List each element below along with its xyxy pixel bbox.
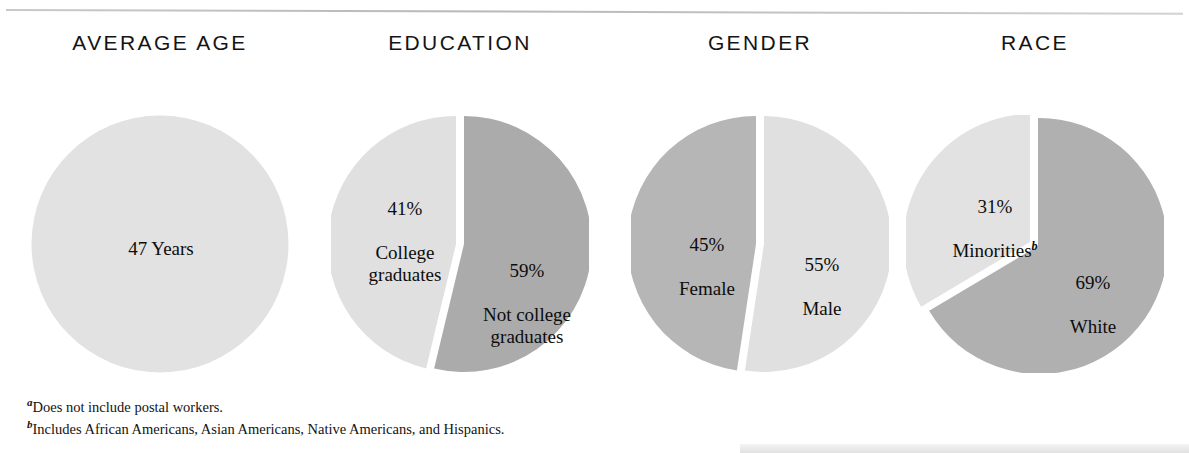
demographics-figure: AVERAGE AGE EDUCATION GENDER RACE 47 Yea… [0,0,1189,453]
pie-chart-gender [631,115,889,373]
footnote-a: aDoes not include postal workers. [27,396,727,418]
pie-chart-average-age [31,115,289,373]
chart-title-race: RACE [905,30,1165,56]
pie-slice-college-graduates [331,116,456,369]
chart-title-education: EDUCATION [330,30,590,56]
pie-chart-education [331,115,589,373]
pie-slice-not-college-graduates [434,116,589,372]
bottom-edge-shading [740,444,1189,453]
chart-title-gender: GENDER [630,30,890,56]
top-divider-rule [6,9,1183,15]
footnote-b-text: Includes African Americans, Asian Americ… [33,421,505,437]
footnotes: aDoes not include postal workers. bInclu… [27,396,727,440]
pie-slice-female [631,116,756,371]
pie-slice-male [745,116,889,372]
pie-chart-race [906,115,1164,373]
chart-title-average-age: AVERAGE AGE [30,30,290,56]
footnote-b: bIncludes African Americans, Asian Ameri… [27,418,727,440]
pie-slice-average-age [32,116,289,373]
footnote-a-text: Does not include postal workers. [33,399,223,415]
